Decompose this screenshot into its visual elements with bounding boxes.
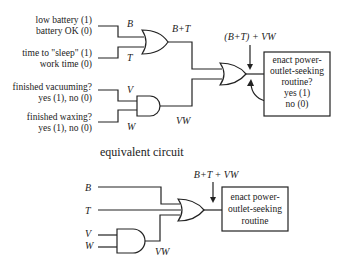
caption: equivalent circuit bbox=[100, 145, 184, 159]
bottom-input-b: B bbox=[85, 182, 91, 193]
bottom-and-gate bbox=[117, 229, 145, 253]
input-w-line2: yes (1), no (0) bbox=[38, 123, 92, 134]
signal-v: V bbox=[127, 84, 135, 95]
bottom-box-line-1: enact power- bbox=[230, 192, 279, 202]
signal-w: W bbox=[127, 121, 137, 132]
top-circuit: low battery (1) battery OK (0) time to "… bbox=[13, 15, 330, 134]
bottom-input-v: V bbox=[85, 228, 93, 239]
bottom-wire-b bbox=[98, 187, 180, 204]
or-gate-1 bbox=[142, 30, 168, 54]
arrow-down-icon bbox=[247, 64, 253, 70]
bottom-circuit: B+T + VW B T V W VW enact power- outlet-… bbox=[85, 169, 288, 257]
arrow-up-icon bbox=[247, 79, 254, 86]
bottom-input-t: T bbox=[85, 205, 92, 216]
logic-diagram: low battery (1) battery OK (0) time to "… bbox=[0, 0, 338, 267]
bottom-box-line-3: routine bbox=[242, 216, 269, 226]
wire-t bbox=[98, 47, 144, 58]
input-t-line1: time to "sleep" (1) bbox=[22, 48, 92, 59]
or-gate-final bbox=[220, 63, 246, 85]
bottom-or-gate bbox=[178, 199, 204, 221]
bottom-arrow-down-icon bbox=[210, 197, 216, 203]
final-output-label: (B+T) + VW bbox=[224, 31, 277, 43]
and-gate-1 bbox=[137, 96, 160, 116]
input-v-line1: finished vacuuming? bbox=[13, 82, 92, 92]
signal-t: T bbox=[127, 52, 134, 63]
curved-arrow-line bbox=[251, 84, 265, 101]
signal-b: B bbox=[127, 18, 133, 29]
input-t-line2: work time (0) bbox=[40, 59, 92, 70]
bottom-final-label: B+T + VW bbox=[194, 169, 240, 180]
box-line-5: no (0) bbox=[286, 99, 309, 110]
and-output-label: VW bbox=[176, 115, 192, 126]
input-b-line2: battery OK (0) bbox=[36, 26, 92, 37]
input-v-line2: yes (1), no (0) bbox=[38, 93, 92, 104]
bottom-input-w: W bbox=[85, 240, 95, 251]
or-output-label: B+T bbox=[172, 23, 192, 34]
wire-b bbox=[98, 26, 144, 37]
wire-b-plus-t bbox=[168, 42, 222, 69]
box-line-1: enact power- bbox=[272, 55, 321, 65]
bottom-and-output-label: VW bbox=[155, 246, 171, 257]
input-w-line1: finished waxing? bbox=[27, 112, 92, 122]
bottom-box-line-2: outlet-seeking bbox=[228, 204, 282, 214]
box-line-3: routine? bbox=[281, 77, 312, 87]
box-line-2: outlet-seeking bbox=[270, 66, 324, 76]
wire-vw bbox=[160, 79, 222, 106]
box-line-4: yes (1) bbox=[284, 88, 310, 99]
input-b-line1: low battery (1) bbox=[36, 15, 92, 26]
bottom-wire-vw bbox=[145, 215, 180, 241]
